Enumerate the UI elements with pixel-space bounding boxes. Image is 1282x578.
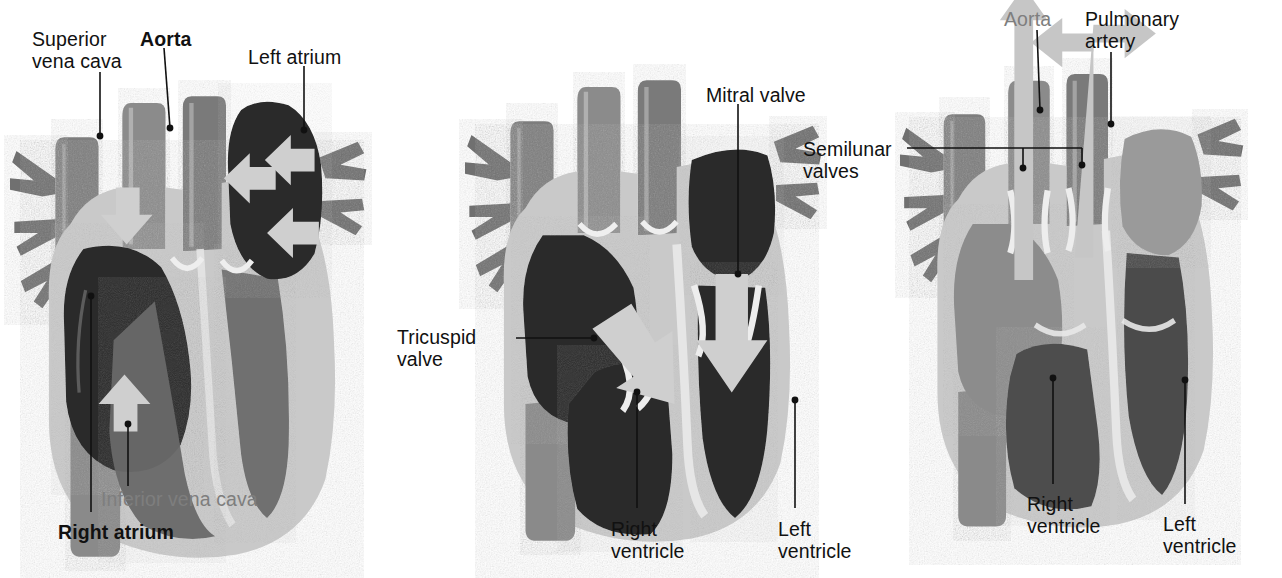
leader-left-ventricle-2 — [1182, 377, 1187, 504]
leader-inferior-vena-cava — [125, 421, 130, 486]
heart-cardiac-cycle-figure: Superior vena cava Aorta Left atrium Inf… — [0, 0, 1282, 578]
label-mitral-valve: Mitral valve — [706, 84, 806, 106]
leader-superior-vena-cava — [97, 72, 102, 139]
label-tricuspid-valve: Tricuspid valve — [397, 326, 476, 370]
label-superior-vena-cava: Superior vena cava — [32, 28, 122, 72]
leader-tricuspid-valve — [516, 335, 597, 340]
leader-right-ventricle — [634, 389, 639, 508]
label-left-atrium: Left atrium — [248, 46, 341, 68]
label-aorta-left: Aorta — [140, 28, 191, 50]
label-left-ventricle: Left ventricle — [778, 518, 852, 562]
leader-semilunar-valves — [907, 148, 1085, 171]
leader-mitral-valve — [735, 104, 740, 277]
leader-right-ventricle-2 — [1050, 375, 1055, 484]
label-right-ventricle-2: Right ventricle — [1027, 493, 1101, 537]
label-left-ventricle-2: Left ventricle — [1163, 513, 1237, 557]
label-pulmonary-artery: Pulmonary artery — [1085, 8, 1179, 52]
label-aorta-right: Aorta — [1004, 8, 1051, 30]
label-inferior-vena-cava: Inferior vena cava — [101, 488, 258, 510]
label-right-atrium: Right atrium — [58, 521, 174, 543]
leader-left-atrium — [301, 66, 306, 133]
label-semilunar-valves: Semilunar valves — [803, 138, 892, 182]
leader-aorta-left — [164, 48, 173, 131]
leader-pulmonary-artery — [1108, 52, 1113, 127]
leader-aorta-right — [1037, 30, 1043, 113]
leader-right-atrium — [88, 293, 93, 512]
label-right-ventricle: Right ventricle — [611, 518, 685, 562]
leader-left-ventricle — [792, 397, 797, 508]
